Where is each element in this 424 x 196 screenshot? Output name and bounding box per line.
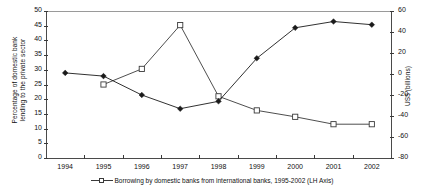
data-point-marker	[178, 23, 183, 28]
data-point-marker	[62, 70, 68, 76]
data-point-marker	[369, 122, 374, 127]
chart-container: Percentage of domestic bank lending to t…	[0, 0, 424, 196]
data-point-marker	[331, 19, 337, 25]
data-series	[101, 23, 375, 127]
legend-item: Borrowing by domestic banks from interna…	[91, 176, 334, 184]
data-point-marker	[254, 108, 259, 113]
open-square-marker-icon	[91, 177, 113, 184]
data-point-marker	[369, 22, 375, 28]
legend-item-label: Borrowing by domestic banks from interna…	[115, 177, 334, 184]
data-point-marker	[293, 114, 298, 119]
plot-area	[0, 0, 424, 196]
data-point-marker	[101, 82, 106, 87]
data-point-marker	[331, 122, 336, 127]
data-point-marker	[177, 106, 183, 112]
data-point-marker	[139, 92, 145, 98]
chart-legend: Borrowing by domestic banks from interna…	[0, 176, 424, 184]
data-point-marker	[139, 66, 144, 71]
data-point-marker	[101, 73, 107, 79]
data-point-marker	[216, 94, 221, 99]
